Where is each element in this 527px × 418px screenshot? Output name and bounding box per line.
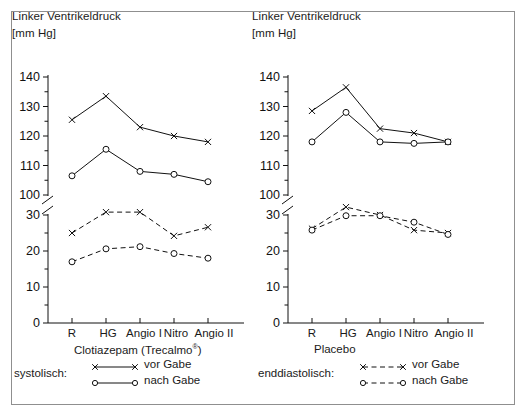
- x-axis-label-r: R: [308, 327, 316, 339]
- y-tick-label: 10: [266, 280, 280, 294]
- y-tick-label: 30: [266, 208, 280, 222]
- legend-title-left: systolisch:: [14, 367, 67, 379]
- axis-break-mark: [42, 196, 53, 204]
- data-point-cross: [137, 124, 143, 130]
- x-axis-label-angio-i: Angio I: [366, 327, 402, 339]
- data-point-cross: [205, 224, 211, 230]
- y-tick-label: 0: [33, 316, 40, 330]
- x-axis-label-angio-ii: Angio II: [435, 327, 474, 339]
- group-label-right: Placebo: [314, 343, 356, 355]
- data-point-circle: [205, 255, 211, 261]
- x-axis-label-angio-i: Angio I: [126, 327, 162, 339]
- data-point-cross: [69, 117, 75, 123]
- x-axis-label-angio-ii: Angio II: [195, 327, 234, 339]
- series-line-systolisch-vor-gabe: [312, 87, 448, 142]
- data-point-circle: [445, 139, 451, 145]
- data-point-circle: [171, 171, 177, 177]
- data-point-cross: [171, 233, 177, 239]
- data-point-circle: [343, 213, 349, 219]
- y-tick-label: 140: [19, 70, 40, 84]
- data-point-circle: [69, 259, 75, 265]
- x-axis-label-nitro: Nitro: [164, 327, 188, 339]
- data-point-circle: [411, 219, 417, 225]
- group-label-left: Clotiazepam (Trecalmo®): [74, 343, 201, 356]
- legend-swatch-x: [90, 361, 140, 373]
- series-line-enddiastolisch-vor-gabe: [312, 207, 448, 233]
- y-tick-label: 20: [266, 244, 280, 258]
- series-line-systolisch-nach-gabe: [72, 149, 208, 181]
- data-point-circle: [411, 140, 417, 146]
- data-point-circle: [69, 173, 75, 179]
- data-point-cross: [309, 108, 315, 114]
- y-tick-label: 0: [273, 316, 280, 330]
- series-line-enddiastolisch-vor-gabe: [72, 212, 208, 236]
- chart-panel-left: Linker Ventrikeldruck [mm Hg] 1001101201…: [0, 0, 252, 394]
- data-point-cross: [103, 209, 109, 215]
- figure-root: Linker Ventrikeldruck [mm Hg] 1001101201…: [0, 0, 527, 418]
- data-point-circle: [309, 139, 315, 145]
- data-point-circle: [309, 227, 315, 233]
- y-tick-label: 130: [19, 100, 40, 114]
- data-point-circle: [103, 146, 109, 152]
- x-axis-label-r: R: [68, 327, 76, 339]
- data-point-cross: [103, 93, 109, 99]
- legend-swatch-o: [358, 377, 408, 389]
- series-line-systolisch-vor-gabe: [72, 96, 208, 142]
- legend-title-right: enddiastolisch:: [258, 367, 334, 379]
- legend-swatch-x: [358, 361, 408, 373]
- data-point-circle: [103, 246, 109, 252]
- data-point-circle: [205, 179, 211, 185]
- y-tick-label: 140: [259, 70, 280, 84]
- legend-entry-label: nach Gabe: [144, 374, 200, 386]
- y-tick-label: 10: [26, 280, 40, 294]
- y-tick-label: 130: [259, 100, 280, 114]
- data-point-circle: [171, 251, 177, 257]
- x-axis-label-nitro: Nitro: [404, 327, 428, 339]
- chart-panel-right: Linker Ventrikeldruck [mm Hg] 1001101201…: [240, 0, 492, 394]
- legend-entry-label: nach Gabe: [412, 374, 468, 386]
- legend-entry-label: vor Gabe: [412, 358, 459, 370]
- y-tick-label: 100: [259, 188, 280, 202]
- y-tick-label: 110: [20, 159, 40, 173]
- data-point-circle: [377, 213, 383, 219]
- data-point-circle: [343, 109, 349, 115]
- axis-break-mark: [282, 206, 293, 214]
- data-point-cross: [69, 230, 75, 236]
- legend-entry-label: vor Gabe: [144, 358, 191, 370]
- y-tick-label: 20: [26, 244, 40, 258]
- y-tick-label: 120: [259, 129, 280, 143]
- data-point-cross: [343, 84, 349, 90]
- y-tick-label: 30: [26, 208, 40, 222]
- data-point-circle: [137, 244, 143, 250]
- axis-break-mark: [282, 196, 293, 204]
- data-point-circle: [445, 231, 451, 237]
- data-point-circle: [137, 168, 143, 174]
- y-tick-label: 110: [260, 159, 280, 173]
- y-tick-label: 120: [19, 129, 40, 143]
- y-tick-label: 100: [19, 188, 40, 202]
- x-axis-label-hg: HG: [339, 327, 356, 339]
- x-axis-label-hg: HG: [99, 327, 116, 339]
- legend-swatch-o: [90, 377, 140, 389]
- data-point-cross: [343, 204, 349, 210]
- data-point-circle: [377, 139, 383, 145]
- axis-break-mark: [42, 206, 53, 214]
